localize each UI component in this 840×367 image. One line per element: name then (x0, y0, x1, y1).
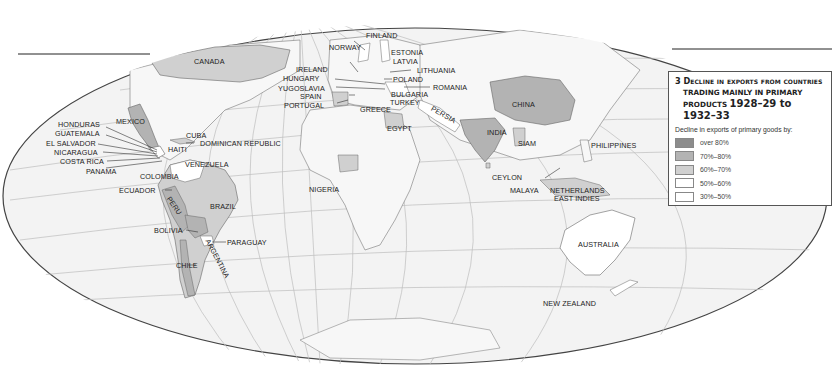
region-nigeria (338, 155, 358, 172)
label-colombia: COLOMBIA (140, 173, 179, 180)
label-ecuador: ECUADOR (119, 187, 156, 194)
label-nicaragua: NICARAGUA (54, 149, 98, 156)
label-brazil: BRAZIL (210, 203, 236, 210)
label-netherlands-east-indies-2: EAST INDIES (554, 195, 600, 202)
label-turkey: TURKEY (390, 99, 420, 106)
label-siam: SIAM (518, 140, 536, 147)
label-dominican-republic: DOMINICAN REPUBLIC (200, 140, 281, 147)
label-bolivia: BOLIVIA (154, 227, 183, 234)
label-canada: CANADA (194, 58, 225, 65)
label-china: CHINA (512, 101, 535, 108)
region-ceylon (486, 163, 490, 168)
legend-title-line3: products 1928–29 to 1932–33 (675, 98, 825, 122)
legend-box: 3 Decline in exports from countries trad… (668, 71, 832, 206)
label-hungary: HUNGARY (283, 75, 320, 82)
label-portugal: PORTUGAL (284, 102, 324, 109)
legend-item-60-70: 60%–70% (675, 163, 825, 177)
label-finland: FINLAND (366, 32, 397, 39)
label-poland: POLAND (393, 76, 423, 83)
label-spain: SPAIN (300, 93, 322, 100)
label-romania: ROMANIA (433, 84, 467, 91)
label-australia: AUSTRALIA (578, 241, 619, 248)
label-latvia: LATVIA (393, 58, 418, 65)
label-estonia: ESTONIA (391, 49, 423, 56)
label-india: INDIA (487, 129, 507, 136)
label-panama: PANAMA (86, 168, 116, 175)
label-nigeria: NIGERIA (309, 186, 339, 193)
label-ceylon: CEYLON (492, 174, 522, 181)
legend-title-line1: 3 Decline in exports from countries (675, 76, 825, 87)
legend-item-70-80: 70%–80% (675, 150, 825, 164)
legend-swatch (675, 151, 694, 161)
label-lithuania: LITHUANIA (417, 67, 455, 74)
label-greece: GREECE (360, 106, 391, 113)
label-el-salvador: EL SALVADOR (46, 140, 96, 147)
label-guatemala: GUATEMALA (55, 130, 100, 137)
legend-item-50-60: 50%–60% (675, 177, 825, 191)
label-philippines: PHILIPPINES (591, 142, 636, 149)
legend-title: 3 Decline in exports from countries trad… (675, 76, 825, 122)
legend-item-30-50: 30%–50% (675, 190, 825, 204)
legend-title-line2: trading mainly in primary (675, 87, 825, 98)
label-honduras: HONDURAS (58, 121, 100, 128)
label-costa-rica: COSTA RICA (60, 158, 104, 165)
label-paraguay: PARAGUAY (227, 239, 267, 246)
legend-swatch (675, 138, 694, 148)
label-chile: CHILE (176, 262, 198, 269)
region-spain (332, 92, 348, 106)
label-mexico: MEXICO (116, 118, 145, 125)
label-haiti: HAITI (168, 146, 187, 153)
label-norway: NORWAY (329, 44, 361, 51)
legend-item-over-80: over 80% (675, 136, 825, 150)
legend-swatch (675, 192, 694, 202)
label-malaya: MALAYA (510, 187, 539, 194)
label-ireland: IRELAND (296, 66, 328, 73)
legend-subtitle: Decline in exports of primary goods by: (675, 126, 825, 133)
label-egypt: EGYPT (387, 125, 412, 132)
label-venezuela: VENEZUELA (185, 161, 229, 168)
legend-swatch (675, 165, 694, 175)
region-finland (380, 40, 390, 62)
legend-swatch (675, 178, 694, 188)
label-new-zealand: NEW ZEALAND (543, 300, 596, 307)
